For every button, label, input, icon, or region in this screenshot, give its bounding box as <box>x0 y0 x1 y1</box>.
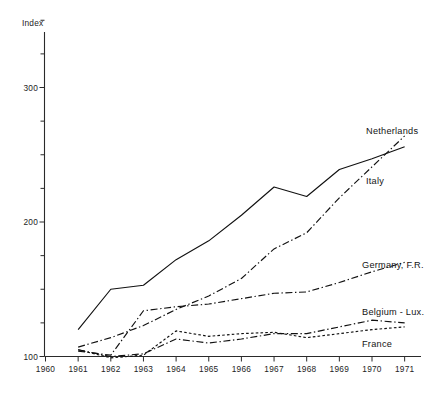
x-tick-label: 1962 <box>101 364 121 374</box>
x-tick-label: 1970 <box>362 364 382 374</box>
series-label-belgium-lux: Belgium - Lux. <box>362 307 424 317</box>
series-label-france: France <box>362 339 392 349</box>
series-lines <box>78 136 405 358</box>
x-axis-ticks <box>46 357 405 362</box>
series-label-italy: Italy <box>366 176 384 186</box>
y-tick-label: 100 <box>23 352 38 362</box>
y-axis-title: Index <box>22 18 44 28</box>
x-tick-label: 1968 <box>297 364 317 374</box>
x-axis-group: 1960196119621963196419651966196719681969… <box>36 357 421 375</box>
x-tick-label: 1969 <box>330 364 350 374</box>
x-axis-tick-labels: 1960196119621963196419651966196719681969… <box>36 364 415 374</box>
chart-canvas: 100200300 Index 196019611962196319641965… <box>0 0 447 403</box>
x-tick-label: 1965 <box>199 364 219 374</box>
series-line-belgium-lux <box>78 320 405 356</box>
y-axis-tick-labels: 100200300 <box>23 83 38 362</box>
y-tick-label: 300 <box>23 83 38 93</box>
series-line-netherlands <box>78 136 405 347</box>
series-label-netherlands: Netherlands <box>366 126 418 136</box>
y-axis-ticks <box>40 20 45 356</box>
x-tick-label: 1960 <box>36 364 56 374</box>
y-tick-label: 200 <box>23 217 38 227</box>
x-tick-label: 1963 <box>134 364 154 374</box>
x-tick-label: 1961 <box>68 364 88 374</box>
x-tick-label: 1966 <box>232 364 252 374</box>
series-line-germany-f-r <box>78 262 405 355</box>
series-line-italy <box>78 147 405 330</box>
x-tick-label: 1967 <box>264 364 284 374</box>
series-label-germany-f-r: Germany, F.R. <box>362 260 424 270</box>
x-tick-label: 1971 <box>395 364 415 374</box>
x-tick-label: 1964 <box>166 364 186 374</box>
y-axis-group: 100200300 Index <box>22 18 45 362</box>
line-chart-figure: 100200300 Index 196019611962196319641965… <box>0 0 447 403</box>
